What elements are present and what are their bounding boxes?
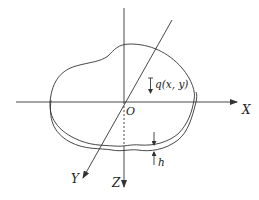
origin-label: O	[126, 105, 135, 118]
thickness-label: h	[158, 156, 165, 168]
load-label: q(x, y)	[155, 78, 188, 90]
x-axis-label: X	[241, 103, 251, 117]
plate-top-outline	[50, 44, 195, 146]
z-axis-label: Z	[111, 176, 121, 190]
plate-diagram: X Y Z O q(x, y) h	[0, 0, 259, 200]
y-axis-label: Y	[71, 172, 80, 186]
